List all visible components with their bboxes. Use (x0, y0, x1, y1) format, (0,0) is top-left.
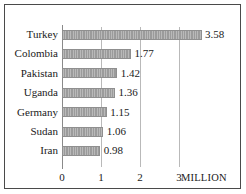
category-label: Pakistan (5, 64, 58, 83)
bar-row: Uganda 1.36 (5, 83, 240, 102)
category-label: Iran (5, 141, 58, 160)
value-label: 1.42 (121, 64, 140, 83)
xtick-label-2: 2 (130, 171, 150, 184)
category-label: Uganda (5, 83, 58, 102)
chart-frame: Turkey 3.58 Colombia 1.77 Pakistan 1.42 … (4, 4, 241, 189)
category-label: Colombia (5, 44, 58, 63)
value-label: 3.58 (205, 25, 224, 44)
bar-row: Colombia 1.77 (5, 44, 240, 63)
bar-pakistan[interactable] (62, 68, 117, 78)
axis-unit-label: MILLION (181, 171, 227, 184)
value-label: 1.15 (110, 103, 129, 122)
bar-row: Pakistan 1.42 (5, 64, 240, 83)
bar-row: Turkey 3.58 (5, 25, 240, 44)
category-label: Turkey (5, 25, 58, 44)
xtick-label-0: 0 (52, 171, 72, 184)
plot-area: Turkey 3.58 Colombia 1.77 Pakistan 1.42 … (5, 5, 240, 188)
bar-turkey[interactable] (62, 30, 202, 40)
category-label: Sudan (5, 122, 58, 141)
bar-uganda[interactable] (62, 88, 115, 98)
value-label: 0.98 (104, 141, 123, 160)
bar-sudan[interactable] (62, 127, 103, 137)
bar-row: Germany 1.15 (5, 103, 240, 122)
bar-colombia[interactable] (62, 49, 131, 59)
xtick-label-1: 1 (91, 171, 111, 184)
value-label: 1.06 (107, 122, 126, 141)
bar-row: Iran 0.98 (5, 141, 240, 160)
bar-germany[interactable] (62, 107, 107, 117)
bar-row: Sudan 1.06 (5, 122, 240, 141)
value-label: 1.36 (119, 83, 138, 102)
bar-iran[interactable] (62, 146, 100, 156)
value-label: 1.77 (135, 44, 154, 63)
category-label: Germany (5, 103, 58, 122)
